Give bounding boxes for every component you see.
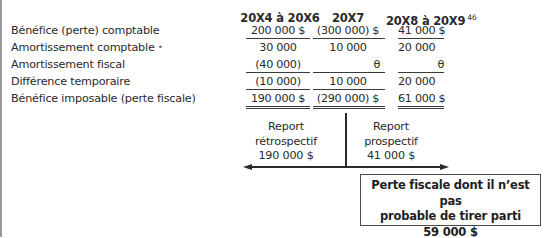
cell-c2-r1: (300 000) $	[310, 24, 386, 38]
double-underline-c2	[313, 106, 385, 109]
column-header-20x4-20x6: 20X4 à 20X6	[240, 11, 320, 25]
row-label-taxable-income: Bénéfice imposable (perte fiscale)	[11, 92, 196, 106]
cell-c1-r5: 190 000 $	[246, 92, 310, 106]
bullet-marker: •	[158, 43, 163, 52]
unused-loss-line2: probable de tirer parti	[361, 209, 540, 225]
row-label-accounting-depreciation: Amortissement comptable •	[11, 41, 162, 55]
underline-c1-r3	[246, 72, 310, 73]
cell-c3-r2: 20 000	[398, 41, 458, 55]
underline-c1-r1	[246, 38, 310, 39]
cell-c1-r1: 200 000 $	[246, 24, 310, 38]
divider-vertical-line	[345, 113, 347, 167]
underline-c3-r3	[398, 72, 444, 73]
cell-c1-r3: (40 000)	[246, 58, 310, 72]
cell-c1-r2: 30 000	[246, 41, 310, 55]
row-label-text: Amortissement comptable	[11, 41, 155, 54]
carryback-amount: 190 000 $	[248, 149, 324, 164]
carryback-line1: Report	[248, 120, 324, 135]
carryforward-line2: prospectif	[356, 135, 426, 150]
double-underline-c1	[246, 106, 310, 109]
unused-loss-line1: Perte fiscale dont il n’est pas	[361, 178, 540, 209]
row-label-tax-depreciation: Amortissement fiscal	[11, 58, 125, 72]
page-left-border	[0, 0, 2, 237]
carryforward-label: Report prospectif 41 000 $	[356, 120, 426, 164]
cell-c3-r1: 41 000 $	[398, 24, 458, 38]
cell-c3-r3: θ	[398, 58, 444, 72]
timeline-arrow-line	[250, 166, 440, 168]
carryback-line2: rétrospectif	[248, 135, 324, 150]
underline-c1-r4	[246, 89, 310, 90]
unused-loss-amount: 59 000 $	[361, 225, 540, 238]
cell-c1-r4: (10 000)	[246, 75, 310, 89]
underline-c2-r3	[313, 72, 385, 73]
underline-c3-r1	[398, 38, 444, 39]
footnote-ref: 46	[467, 13, 476, 22]
arrow-right-icon	[440, 164, 449, 170]
column-header-20x7: 20X7	[318, 11, 378, 25]
double-underline-c3	[398, 106, 444, 109]
carryforward-line1: Report	[356, 120, 426, 135]
cell-c2-r3: θ	[310, 58, 380, 72]
row-label-temporary-difference: Différence temporaire	[11, 75, 130, 89]
row-label-accounting-profit: Bénéfice (perte) comptable	[11, 24, 159, 38]
unused-tax-loss-box: Perte fiscale dont il n’est pas probable…	[360, 174, 541, 226]
carryback-label: Report rétrospectif 190 000 $	[248, 120, 324, 164]
cell-c3-r4: 20 000	[398, 75, 458, 89]
cell-c2-r2: 10 000	[310, 41, 386, 55]
carryforward-amount: 41 000 $	[356, 149, 426, 164]
cell-c2-r5: (290 000) $	[310, 92, 386, 106]
underline-c2-r1	[313, 38, 385, 39]
cell-c3-r5: 61 000 $	[398, 92, 458, 106]
cell-c2-r4: 10 000	[310, 75, 386, 89]
underline-c2-r4	[313, 89, 385, 90]
